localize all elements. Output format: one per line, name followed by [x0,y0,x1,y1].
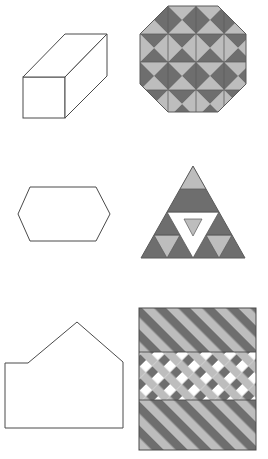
panel-rectangular-prism [0,0,134,153]
elongated-hexagon-icon [0,153,134,300]
panel-house-pentagon [0,300,134,459]
figure-sheet [0,0,268,459]
panel-sierpinski-triangle [134,153,268,300]
panel-octagon-triangle-tiling [134,0,268,153]
sierpinski-triangle-icon [134,153,268,300]
rectangular-prism-icon [0,0,134,153]
panel-elongated-hexagon [0,153,134,300]
house-pentagon-icon [0,300,134,459]
octagon-triangle-tiling-icon [134,0,268,153]
diagonal-stripe-square-icon [134,300,268,459]
panel-diagonal-stripe-square [134,300,268,459]
